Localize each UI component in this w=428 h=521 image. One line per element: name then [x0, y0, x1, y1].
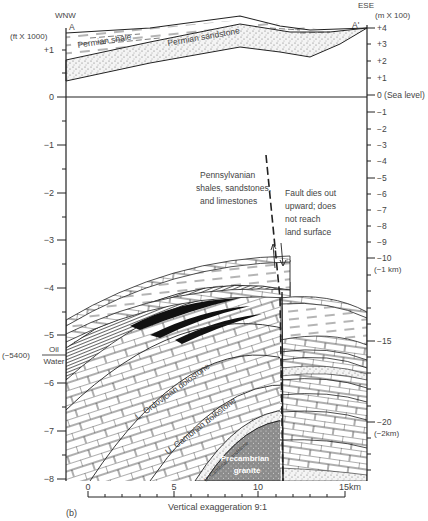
right-axis-unit: (m X 100)	[375, 11, 410, 20]
oil-water-contact-depth: (−5400)	[2, 351, 30, 360]
right-tick-label: −4	[377, 156, 387, 166]
label-pennsylvanian-2: shales, sandstones,	[196, 183, 271, 193]
left-tick-label: −1	[44, 140, 54, 150]
surface-profile	[66, 16, 367, 81]
cross-section-diagram: Permian shale Permian sandstone	[0, 0, 428, 521]
fault-down-arrow	[280, 243, 286, 266]
right-km-label-2: (−2km)	[374, 429, 399, 438]
right-tick-label: −6	[377, 189, 387, 199]
section-end-a-prime: A'	[352, 20, 360, 30]
right-tick-label: −9	[377, 237, 387, 247]
left-tick-label: −2	[44, 188, 54, 198]
right-tick-label: −7	[377, 205, 387, 215]
right-tick-label: +2	[377, 56, 387, 66]
oil-label: Oil	[49, 345, 59, 354]
left-tick-label: −5	[44, 330, 54, 340]
left-tick-label: −6	[44, 378, 54, 388]
left-tick-label: −4	[44, 283, 54, 293]
right-tick-label: +3	[377, 39, 387, 49]
left-axis	[42, 28, 66, 481]
right-tick-label: −3	[377, 140, 387, 150]
fault-note-1: Fault dies out	[285, 188, 337, 198]
left-tick-label: +1	[44, 45, 54, 55]
vertical-exaggeration-note: Vertical exaggeration 9:1	[168, 502, 267, 512]
left-tick-label: −8	[44, 474, 54, 484]
fault-note-2: upward; does	[285, 201, 336, 211]
label-precambrian-granite-2: granite	[234, 466, 261, 475]
label-pennsylvanian-3: and limestones	[200, 196, 257, 206]
right-tick-label: 0 (Sea level)	[377, 90, 425, 100]
horizontal-scale-bar	[88, 491, 345, 497]
panel-label: (b)	[66, 508, 77, 518]
fault-note-3: not reach	[285, 214, 321, 224]
left-tick-label: −3	[44, 235, 54, 245]
right-tick-label: −5	[377, 173, 387, 183]
right-tick-label: −20	[377, 417, 392, 427]
left-tick-label: −7	[44, 426, 54, 436]
right-tick-label: −1	[377, 107, 387, 117]
right-axis	[367, 25, 375, 481]
section-start-a: A	[69, 22, 75, 32]
right-tick-label: −15	[377, 336, 392, 346]
right-tick-label: −10	[377, 253, 392, 263]
label-pennsylvanian-1: Pennsylvanian	[200, 170, 256, 180]
direction-wnw: WNW	[55, 11, 76, 20]
left-tick-label: 0	[49, 92, 54, 102]
fault-note-4: land surface	[285, 227, 332, 237]
right-tick-label: +1	[377, 73, 387, 83]
right-tick-label: +4	[377, 23, 387, 33]
right-km-label-1: (−1 km)	[374, 265, 402, 274]
scale-tick-0: 0	[85, 482, 90, 492]
label-precambrian-granite-1: Precambrian	[221, 454, 270, 463]
direction-ese: ESE	[358, 1, 374, 10]
right-tick-label: −8	[377, 221, 387, 231]
scale-tick-15km: 15km	[339, 482, 361, 492]
right-tick-label: −2	[377, 124, 387, 134]
scale-tick-5: 5	[171, 482, 176, 492]
scale-tick-10: 10	[253, 482, 263, 492]
water-label: Water	[43, 357, 64, 366]
left-axis-unit: (ft X 1000)	[10, 32, 48, 41]
